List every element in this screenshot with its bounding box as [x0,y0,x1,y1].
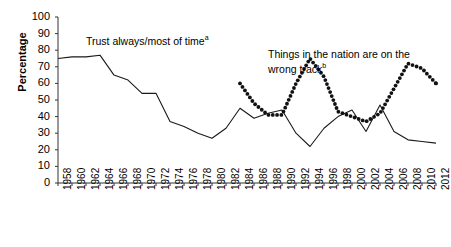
annotation-wrongtrack-series: Things in the nation are on thewrong tra… [268,48,410,75]
trust-footnote-marker: a [205,34,209,41]
wrongtrack-footnote-marker: b [322,62,326,69]
annotation-trust-series: Trust always/most of timea [86,32,209,47]
